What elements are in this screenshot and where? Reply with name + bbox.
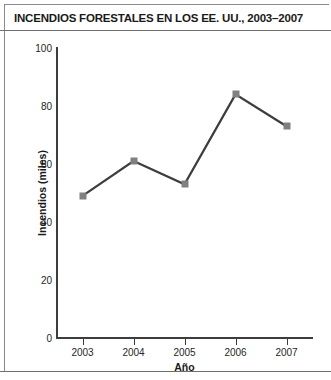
y-axis-title-wrapper: Incendios (miles) (18, 48, 32, 338)
x-tick-label: 2004 (122, 347, 144, 358)
x-tick-mark (134, 339, 135, 345)
x-tick-label: 2006 (224, 347, 246, 358)
x-tick-mark (287, 339, 288, 345)
title-divider (0, 30, 331, 31)
x-axis-title: Año (57, 361, 312, 373)
x-tick-label: 2005 (173, 347, 195, 358)
figure-border (4, 4, 329, 372)
data-point-marker (79, 192, 86, 199)
y-axis-line (56, 47, 58, 339)
data-point-marker (232, 91, 239, 98)
x-tick-mark (83, 339, 84, 345)
y-tick-label: 20 (41, 275, 52, 286)
x-tick-mark (236, 339, 237, 345)
y-tick-label: 0 (46, 333, 52, 344)
y-tick-label: 80 (41, 101, 52, 112)
chart-figure: INCENDIOS FORESTALES EN LOS EE. UU., 200… (0, 0, 331, 380)
x-tick-label: 2003 (71, 347, 93, 358)
x-tick-mark (185, 339, 186, 345)
title-bar: INCENDIOS FORESTALES EN LOS EE. UU., 200… (5, 5, 331, 31)
data-point-marker (181, 181, 188, 188)
data-point-marker (130, 158, 137, 165)
chart-title: INCENDIOS FORESTALES EN LOS EE. UU., 200… (5, 12, 303, 24)
y-axis-title: Incendios (miles) (36, 123, 48, 263)
data-point-marker (283, 123, 290, 130)
y-tick-label: 100 (35, 43, 52, 54)
x-tick-label: 2007 (275, 347, 297, 358)
